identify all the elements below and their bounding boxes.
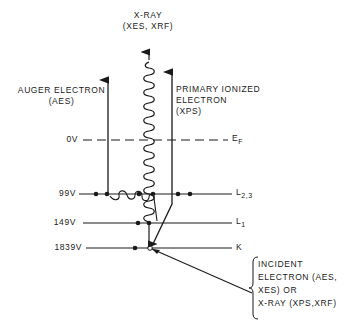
auger-label: AUGER ELECTRON (AES) xyxy=(14,85,109,107)
level-ef-sub: F xyxy=(238,138,243,145)
voltage-149v: 149V xyxy=(36,217,76,228)
primary-label-line3: (XPS) xyxy=(176,106,260,117)
level-k-name: K xyxy=(236,242,242,252)
incident-line xyxy=(152,249,252,293)
xray-label-line2: (XES, XRF) xyxy=(118,21,178,32)
incident-line3: XES) OR xyxy=(258,284,337,297)
k-vacancy xyxy=(148,246,153,251)
level-l1-sub: 1 xyxy=(241,221,246,228)
level-l1: L1 xyxy=(236,216,246,227)
voltage-99v: 99V xyxy=(36,188,76,199)
primary-label-line1: PRIMARY IONIZED xyxy=(176,84,260,95)
auger-label-line1: AUGER ELECTRON xyxy=(14,85,109,96)
level-k: K xyxy=(236,242,242,253)
electron-dots xyxy=(94,192,193,251)
xray-label-line1: X-RAY xyxy=(118,10,178,21)
incident-line4: X-RAY (XPS,XRF) xyxy=(258,297,337,310)
primary-label-line2: ELECTRON xyxy=(176,95,260,106)
primary-electron-arrow xyxy=(152,72,172,246)
incident-label: INCIDENT ELECTRON (AES, XES) OR X-RAY (X… xyxy=(258,258,337,310)
brace xyxy=(249,257,258,319)
level-l23: L2,3 xyxy=(236,187,253,198)
auger-transition-wave xyxy=(110,191,157,221)
level-ef: EF xyxy=(232,133,243,144)
primary-label: PRIMARY IONIZED ELECTRON (XPS) xyxy=(176,84,260,117)
incident-line2: ELECTRON (AES, xyxy=(258,271,337,284)
level-l23-sub: 2,3 xyxy=(241,192,253,199)
xray-label: X-RAY (XES, XRF) xyxy=(118,10,178,32)
voltage-1839v: 1839V xyxy=(36,242,82,253)
incident-line1: INCIDENT xyxy=(258,258,337,271)
voltage-0v: 0V xyxy=(40,134,78,145)
auger-label-line2: (AES) xyxy=(14,96,109,107)
